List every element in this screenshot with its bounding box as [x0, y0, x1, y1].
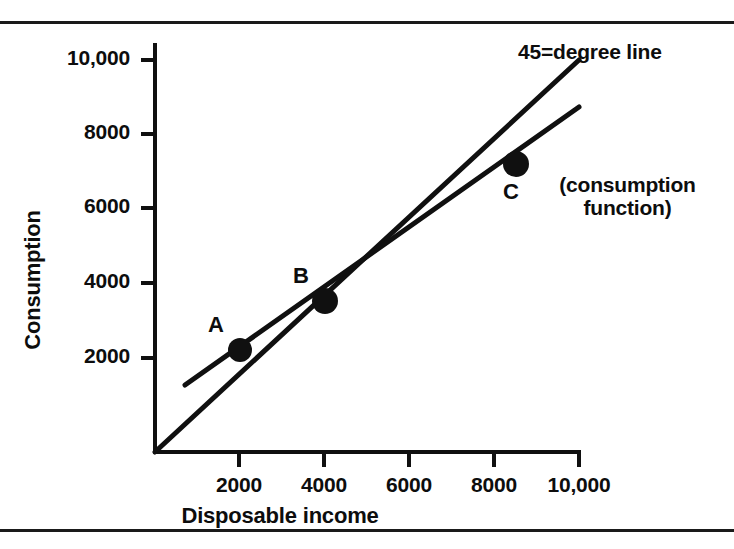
annotation-consumption-line2: function) [540, 197, 715, 220]
y-tick-label-8000: 8000 [20, 120, 130, 144]
data-point-label-b: B [293, 263, 309, 289]
data-point-label-a: A [208, 312, 224, 338]
x-tick-label-10000: 10,000 [524, 473, 634, 497]
annotation-consumption-function: (consumption function) [540, 174, 715, 219]
data-point-c [503, 151, 529, 177]
data-point-b [312, 288, 338, 314]
x-axis-title: Disposable income [0, 503, 560, 529]
y-axis-title: Consumption [20, 185, 46, 375]
annotation-consumption-line1: (consumption [540, 174, 715, 197]
data-point-a [228, 338, 252, 362]
y-tick-label-10000: 10,000 [20, 46, 130, 70]
consumption-function-chart: 10,000 8000 6000 4000 2000 2000 4000 600… [0, 24, 734, 528]
data-point-label-c: C [503, 179, 519, 205]
annotation-45-degree-line: 45=degree line [518, 41, 662, 64]
page-rule-bottom [0, 529, 734, 532]
